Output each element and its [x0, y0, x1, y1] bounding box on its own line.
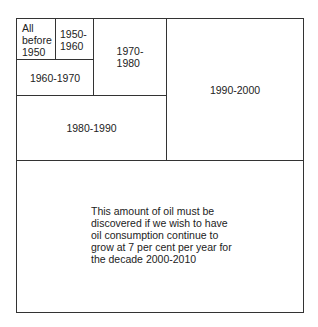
label-1970-1980: 1970- 1980 — [117, 45, 144, 69]
label-before-1950: All before 1950 — [22, 22, 52, 58]
label-1980-1990: 1980-1990 — [66, 122, 116, 134]
label-1960-1970: 1960-1970 — [30, 72, 80, 84]
region-1980-1990: 1980-1990 — [16, 95, 167, 161]
region-1960-1970: 1960-1970 — [16, 59, 94, 96]
region-1970-1980: 1970- 1980 — [93, 18, 167, 96]
label-1950-1960: 1950- 1960 — [60, 28, 87, 52]
label-2000-2010: This amount of oil must be discovered if… — [91, 205, 232, 265]
region-1990-2000: 1990-2000 — [166, 18, 304, 161]
label-1990-2000: 1990-2000 — [210, 84, 260, 96]
